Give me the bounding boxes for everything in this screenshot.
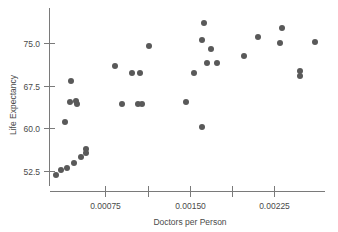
data-point bbox=[279, 25, 285, 31]
data-point bbox=[68, 78, 74, 84]
data-point bbox=[201, 20, 207, 26]
data-point bbox=[112, 63, 118, 69]
y-tick-label-0: 75.0 bbox=[23, 39, 40, 49]
data-point bbox=[255, 34, 261, 40]
chart-canvas: 75.0 67.5 60.0 52.5 0.00075 0.00150 0.00… bbox=[0, 0, 338, 232]
data-point bbox=[137, 70, 143, 76]
data-points-layer bbox=[53, 20, 318, 178]
data-point bbox=[53, 172, 59, 178]
data-point bbox=[58, 167, 64, 173]
y-tick-label-1: 67.5 bbox=[23, 82, 40, 92]
data-point bbox=[214, 60, 220, 66]
data-point bbox=[67, 99, 73, 105]
data-point bbox=[64, 165, 70, 171]
x-axis-title: Doctors per Person bbox=[153, 217, 226, 227]
data-point bbox=[183, 99, 189, 105]
y-tick-label-3: 52.5 bbox=[23, 167, 40, 177]
data-point bbox=[129, 70, 135, 76]
data-point bbox=[119, 101, 125, 107]
data-point bbox=[241, 53, 247, 59]
data-point bbox=[204, 60, 210, 66]
data-point bbox=[139, 101, 145, 107]
data-point bbox=[146, 43, 152, 49]
data-point bbox=[71, 160, 77, 166]
data-point bbox=[83, 150, 89, 156]
data-point bbox=[62, 119, 68, 125]
data-point bbox=[74, 101, 80, 107]
x-tick-label-0: 0.00075 bbox=[90, 201, 121, 211]
data-point bbox=[199, 37, 205, 43]
data-point bbox=[297, 73, 303, 79]
y-axis-title: Life Expectancy bbox=[8, 74, 18, 135]
y-tick-label-2: 60.0 bbox=[23, 124, 40, 134]
data-point bbox=[277, 40, 283, 46]
scatter-plot-figure: 75.0 67.5 60.0 52.5 0.00075 0.00150 0.00… bbox=[0, 0, 338, 232]
data-point bbox=[312, 39, 318, 45]
data-point bbox=[191, 70, 197, 76]
data-point bbox=[78, 154, 84, 160]
data-point bbox=[199, 124, 205, 130]
data-point bbox=[208, 46, 214, 52]
x-tick-label-1: 0.00150 bbox=[175, 201, 206, 211]
x-tick-label-2: 0.00225 bbox=[259, 201, 290, 211]
